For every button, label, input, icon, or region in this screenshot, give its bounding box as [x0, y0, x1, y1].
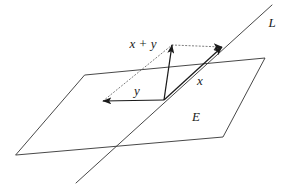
vector-x-arrow — [164, 47, 222, 100]
label-sum-vector: x + y — [129, 36, 157, 51]
plane-e-outline — [16, 58, 265, 155]
label-vector-x: x — [196, 73, 203, 88]
line-l-segment — [76, 5, 272, 183]
vector-addition-diagram: x + y x y E L — [0, 0, 284, 188]
label-line-l: L — [267, 15, 275, 30]
vector-sum-arrow — [164, 45, 172, 100]
label-vector-y: y — [132, 83, 140, 98]
dotted-edge-sum-to-x — [172, 45, 222, 47]
label-plane-e: E — [191, 109, 200, 124]
diagram-canvas: x + y x y E L — [0, 0, 284, 188]
vector-y-arrow — [103, 100, 164, 101]
